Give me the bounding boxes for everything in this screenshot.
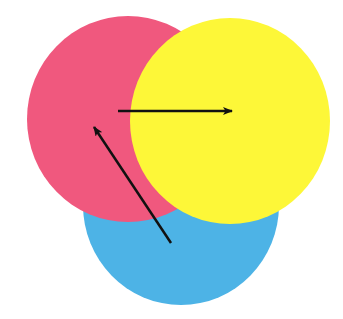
circles-group (27, 16, 330, 305)
yellow-circle (130, 18, 330, 224)
color-circles-diagram (0, 0, 343, 319)
